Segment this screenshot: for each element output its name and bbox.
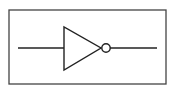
inversion-bubble	[102, 44, 110, 52]
not-gate-diagram	[0, 0, 177, 91]
